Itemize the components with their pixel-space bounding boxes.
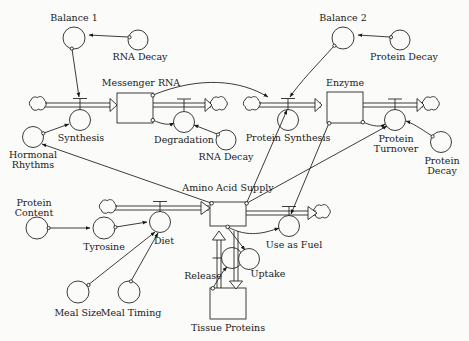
- aux-tyrosine: [93, 217, 115, 239]
- label-balance-2: Balance 2: [319, 13, 366, 24]
- aux-meal-size: [67, 281, 89, 303]
- label-diet: Diet: [154, 236, 174, 247]
- link-proteindecay-balance2: [358, 35, 390, 37]
- label-uptake: Uptake: [251, 269, 286, 280]
- valve-degradation: [174, 99, 195, 133]
- aux-protein-decay-right: [431, 132, 452, 153]
- aux-hormonal-rhythms: [23, 127, 44, 148]
- link-rnadecay1-balance1: [89, 35, 128, 37]
- label-amino-acid-supply: Amino Acid Supply: [182, 183, 273, 194]
- link-balance2-proteinsynthesis: [290, 46, 334, 97]
- label-use-as-fuel: Use as Fuel: [266, 240, 322, 251]
- cloud-protein-turnover-sink: [422, 97, 439, 111]
- label-protein-turnover-2: Turnover: [374, 144, 418, 155]
- label-rna-decay-2: RNA Decay: [199, 152, 254, 163]
- flow-pipe-use-as-fuel: [246, 207, 317, 220]
- valve-protein-turnover: [385, 99, 406, 131]
- label-balance-1: Balance 1: [50, 13, 97, 24]
- cloud-protein-synthesis-source: [243, 97, 260, 111]
- label-meal-timing: Meal Timing: [101, 308, 162, 319]
- cloud-diet-source: [99, 200, 116, 214]
- aux-protein-content: [26, 217, 48, 239]
- label-release: Release: [184, 271, 222, 282]
- link-rnadecay2-degradation: [194, 125, 217, 134]
- link-aminoacid-useasfuel: [228, 227, 279, 234]
- stock-tissue-proteins: [210, 288, 246, 319]
- aux-protein-decay-top: [390, 30, 410, 50]
- aux-balance-1: [63, 27, 85, 49]
- link-tyrosine-diet: [116, 222, 147, 227]
- link-balance1-synthesis: [72, 49, 79, 97]
- flow-pipe-degradation: [153, 99, 212, 112]
- label-hormonal-rhythms-2: Rhythms: [12, 160, 54, 171]
- label-messenger-rna: Messenger RNA: [102, 78, 180, 89]
- stock-messenger-rna: [117, 93, 153, 123]
- aux-rna-decay-1: [128, 30, 148, 50]
- stock-enzyme: [327, 92, 363, 123]
- stock-amino-acid-supply: [210, 202, 246, 226]
- label-tyrosine: Tyrosine: [83, 242, 125, 253]
- label-meal-size: Meal Size: [54, 308, 101, 319]
- cloud-synthesis-source: [29, 97, 46, 111]
- diagram-canvas: Balance 1 RNA Decay Messenger RNA Synthe…: [0, 0, 469, 341]
- link-enzyme-proteinturnover: [363, 122, 385, 126]
- link-mrna-degradation: [153, 120, 174, 124]
- link-aminoacid-uptake: [228, 228, 245, 250]
- label-rna-decay-1: RNA Decay: [113, 52, 168, 63]
- label-protein-decay-right-2: Decay: [427, 166, 457, 177]
- link-mealsize-diet: [88, 232, 155, 285]
- link-aminoacid-hormonal: [42, 144, 211, 203]
- label-protein-content-2: Content: [15, 208, 53, 219]
- aux-meal-timing: [118, 281, 140, 303]
- label-degradation: Degradation: [154, 135, 214, 146]
- cloud-use-as-fuel-sink: [313, 205, 330, 219]
- cloud-degradation-sink: [210, 97, 227, 111]
- label-protein-synthesis: Protein Synthesis: [246, 133, 331, 144]
- label-tissue-proteins: Tissue Proteins: [191, 323, 265, 334]
- valve-uptake: [239, 249, 260, 270]
- label-enzyme: Enzyme: [326, 78, 364, 89]
- label-protein-decay-top: Protein Decay: [370, 52, 438, 63]
- label-synthesis: Synthesis: [58, 133, 104, 144]
